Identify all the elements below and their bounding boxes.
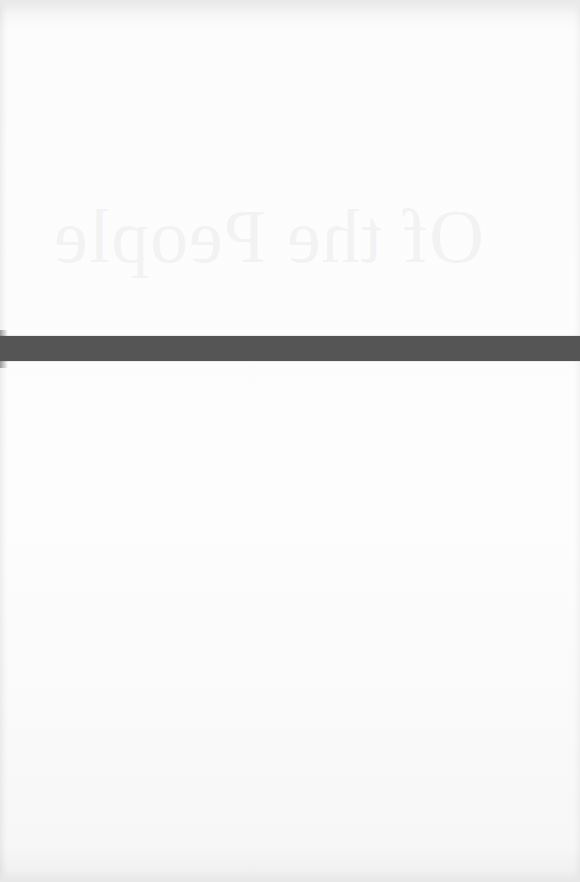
page-bottom-edge [0, 870, 580, 882]
dark-horizontal-band [0, 336, 580, 361]
book-page: Of the People [0, 0, 580, 882]
show-through-title: Of the People [64, 196, 484, 276]
page-top-edge [0, 0, 580, 14]
